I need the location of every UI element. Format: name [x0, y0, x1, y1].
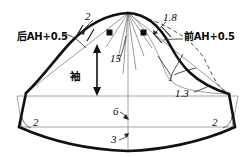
front-armhole-label: 前AH+0.5 [184, 32, 235, 42]
sleeve-hem-curve [19, 127, 235, 151]
leader-arrowheads [80, 30, 158, 138]
cap-height-label: 15 [110, 53, 121, 64]
sleeve-label: 袖 [70, 71, 80, 82]
center-offset-3-label: 3 [111, 134, 117, 145]
apex-chord-guides [26, 13, 229, 94]
left-side-seam [19, 93, 26, 127]
apex-drop-right [128, 13, 136, 70]
left-right-angle-square [107, 30, 112, 35]
right-right-angle-square [141, 30, 146, 35]
left-hem-offset-label: 2 [33, 117, 39, 128]
right-hem-arc [223, 116, 232, 128]
center-offset-6-label: 6 [113, 106, 119, 117]
right-hem-offset-label: 2 [212, 117, 218, 128]
back-cap-offset-label: 2 [85, 11, 91, 22]
left-hem-arc [22, 116, 31, 128]
front-cap-offset-label: 1.8 [163, 12, 177, 23]
sleeve-arrow-head-up [93, 44, 101, 53]
back-armhole-label: 后AH+0.5 [17, 32, 68, 42]
back-perp-mark-2 [87, 29, 94, 41]
leader-one-three [194, 85, 211, 92]
pattern-drawing [0, 0, 251, 157]
front-lower-offset-label: 1 [168, 72, 174, 83]
apex-drop-left [123, 13, 128, 74]
sleeve-cap-height-arrow [93, 44, 101, 96]
front-hem-offset-label: 1.3 [175, 88, 189, 99]
sleeve-arrow-head-down [93, 87, 101, 96]
sleeve-cap-diagram: 后AH+0.5 2 1.8 前AH+0.5 15 袖 1 1.3 6 3 2 2 [0, 0, 251, 157]
